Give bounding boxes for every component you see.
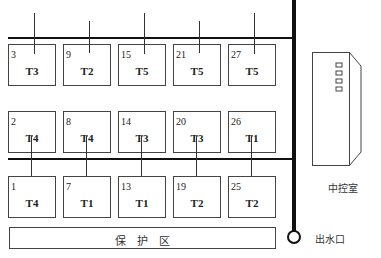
plot-20: 20T3 xyxy=(173,111,221,153)
plot-2: 2T4 xyxy=(8,111,56,153)
plot-number: 13 xyxy=(121,181,131,192)
plot-number: 8 xyxy=(66,116,71,127)
plot-number: 15 xyxy=(121,49,131,60)
water-outlet-label: 出水口 xyxy=(315,231,345,246)
plot-number: 7 xyxy=(66,181,71,192)
plot-treatment: T2 xyxy=(64,65,110,77)
sampling-tube xyxy=(199,21,200,53)
plot-treatment: T2 xyxy=(229,197,275,209)
plot-treatment: T1 xyxy=(229,132,275,144)
plot-number: 1 xyxy=(11,181,16,192)
plot-number: 9 xyxy=(66,49,71,60)
plot-number: 20 xyxy=(176,116,186,127)
plot-8: 8T4 xyxy=(63,111,111,153)
plot-number: 25 xyxy=(231,181,241,192)
plot-9: 9T2 xyxy=(63,44,111,86)
plot-15: 15T5 xyxy=(118,44,166,86)
plot-treatment: T3 xyxy=(174,132,220,144)
plot-treatment: T3 xyxy=(9,65,55,77)
plot-treatment: T1 xyxy=(119,197,165,209)
control-room-label: 中控室 xyxy=(328,180,358,195)
plot-treatment: T4 xyxy=(9,197,55,209)
plot-25: 25T2 xyxy=(228,176,276,218)
plot-14: 14T3 xyxy=(118,111,166,153)
plot-number: 19 xyxy=(176,181,186,192)
sampling-tube xyxy=(254,13,255,54)
plot-1: 1T4 xyxy=(8,176,56,218)
protection-zone-label: 保 护 区 xyxy=(10,232,275,248)
plot-number: 21 xyxy=(176,49,186,60)
plot-26: 26T1 xyxy=(228,111,276,153)
plot-treatment: T1 xyxy=(64,197,110,209)
plot-number: 2 xyxy=(11,116,16,127)
sampling-tube xyxy=(34,13,35,54)
sampling-tube xyxy=(89,21,90,53)
plot-number: 27 xyxy=(231,49,241,60)
plot-3: 3T3 xyxy=(8,44,56,86)
plot-treatment: T5 xyxy=(229,65,275,77)
plot-treatment: T4 xyxy=(9,132,55,144)
control-room xyxy=(312,52,362,167)
plot-number: 14 xyxy=(121,116,131,127)
main-pipe xyxy=(292,0,296,232)
plot-21: 21T5 xyxy=(173,44,221,86)
plot-7: 7T1 xyxy=(63,176,111,218)
plot-number: 3 xyxy=(11,49,16,60)
plot-treatment: T5 xyxy=(119,65,165,77)
plot-number: 26 xyxy=(231,116,241,127)
plot-treatment: T2 xyxy=(174,197,220,209)
protection-zone: 保 护 区 xyxy=(9,227,276,249)
control-room-cabinet-icon xyxy=(312,52,362,167)
sampling-tube xyxy=(144,13,145,54)
top-pipe xyxy=(8,37,295,39)
plot-treatment: T4 xyxy=(64,132,110,144)
plot-treatment: T5 xyxy=(174,65,220,77)
outlet-circle-icon xyxy=(287,230,301,244)
plot-13: 13T1 xyxy=(118,176,166,218)
plot-27: 27T5 xyxy=(228,44,276,86)
plot-treatment: T3 xyxy=(119,132,165,144)
plot-19: 19T2 xyxy=(173,176,221,218)
